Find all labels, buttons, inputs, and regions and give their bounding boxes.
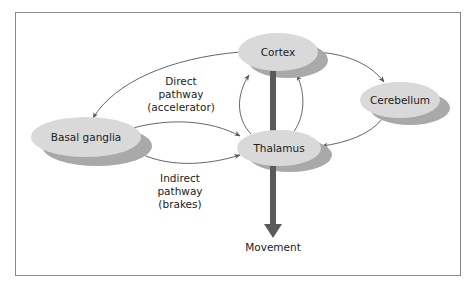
thalamus-label: Thalamus [253, 142, 304, 154]
indirect-pathway-line1: Indirect [157, 172, 202, 185]
edge-direct-pathway [133, 122, 240, 136]
edge-thalamus-to-cortex-left [239, 75, 251, 134]
cortex-label: Cortex [261, 46, 296, 58]
indirect-pathway-line2: pathway [157, 185, 202, 198]
edge-cerebellum-to-thalamus [322, 118, 383, 146]
indirect-pathway-line3: (brakes) [157, 198, 202, 211]
edge-thalamus-to-cortex-right [292, 75, 303, 134]
direct-pathway-line3: (accelerator) [147, 101, 215, 114]
direct-pathway-line2: pathway [147, 88, 215, 101]
cerebellum-label: Cerebellum [370, 94, 430, 106]
direct-pathway-label: Direct pathway (accelerator) [147, 75, 215, 114]
movement-label: Movement [245, 241, 301, 253]
basal-ganglia-label: Basal ganglia [51, 131, 122, 143]
diagram-canvas [0, 0, 472, 292]
direct-pathway-line1: Direct [147, 75, 215, 88]
indirect-pathway-label: Indirect pathway (brakes) [157, 172, 202, 211]
